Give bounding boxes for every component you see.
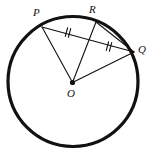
vertex-label-R: R [89,4,96,15]
vertex-label-O: O [67,88,75,99]
congruence-tick-XQ-stroke [106,42,108,51]
segment-RO [73,22,97,83]
congruence-tick-XQ [106,42,111,52]
segment-OQ [73,52,135,83]
congruence-tick-PX-stroke [68,29,70,38]
segment-RQ [96,22,134,52]
segment-PQ [42,27,134,52]
circle-geometry-figure: P R Q O [0,0,153,154]
geometry-canvas [0,0,153,154]
vertex-label-Q: Q [138,44,146,55]
vertex-label-P: P [33,7,40,18]
congruence-tick-PX-stroke [65,28,67,37]
segment-PO [42,27,73,83]
center-point-O [70,80,75,85]
congruence-tick-PX [65,28,70,38]
congruence-tick-XQ-stroke [109,43,111,52]
